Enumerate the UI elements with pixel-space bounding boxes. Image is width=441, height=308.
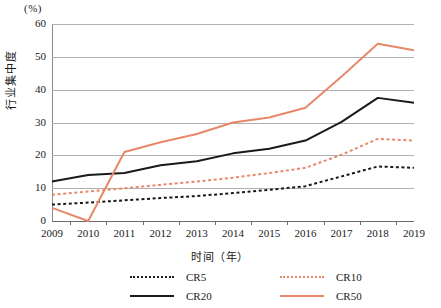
x-tick-mark xyxy=(215,221,216,225)
y-tick-label: 40 xyxy=(20,83,46,95)
x-tick-label: 2010 xyxy=(68,227,108,239)
x-tick-mark xyxy=(396,221,397,225)
y-tick-label: 50 xyxy=(20,50,46,62)
x-tick-label: 2013 xyxy=(177,227,217,239)
legend-item-cr5[interactable]: CR5 xyxy=(130,270,206,284)
legend-swatch-cr20 xyxy=(130,291,174,301)
x-tick-label: 2019 xyxy=(394,227,434,239)
x-tick-label: 2009 xyxy=(32,227,72,239)
x-tick-mark xyxy=(360,221,361,225)
y-tick-label: 20 xyxy=(20,148,46,160)
legend-label-cr50: CR50 xyxy=(336,290,362,302)
x-tick-label: 2017 xyxy=(322,227,362,239)
legend-swatch-cr5 xyxy=(130,272,174,282)
chart-figure: (%) 行业集中度 0102030405060 2009201020112012… xyxy=(0,0,441,308)
x-tick-label: 2012 xyxy=(141,227,181,239)
x-tick-mark xyxy=(251,221,252,225)
y-tick-label: 60 xyxy=(20,17,46,29)
x-tick-mark xyxy=(70,221,71,225)
x-tick-label: 2015 xyxy=(249,227,289,239)
y-tick-label: 10 xyxy=(20,181,46,193)
legend-label-cr5: CR5 xyxy=(186,271,206,283)
x-axis-title: 时间（年） xyxy=(150,248,290,264)
x-tick-label: 2014 xyxy=(213,227,253,239)
x-tick-mark xyxy=(179,221,180,225)
x-tick-mark xyxy=(143,221,144,225)
legend-label-cr20: CR20 xyxy=(186,290,212,302)
x-tick-label: 2016 xyxy=(285,227,325,239)
legend-swatch-cr50 xyxy=(280,291,324,301)
legend-item-cr10[interactable]: CR10 xyxy=(280,270,362,284)
x-tick-label: 2018 xyxy=(358,227,398,239)
chart-legend: CR5CR10CR20CR50 xyxy=(130,270,430,304)
legend-item-cr20[interactable]: CR20 xyxy=(130,289,212,303)
x-tick-label: 2011 xyxy=(104,227,144,239)
legend-label-cr10: CR10 xyxy=(336,271,362,283)
legend-item-cr50[interactable]: CR50 xyxy=(280,289,362,303)
series-lines xyxy=(52,24,414,221)
x-tick-mark xyxy=(324,221,325,225)
y-tick-label: 30 xyxy=(20,116,46,128)
x-tick-mark xyxy=(106,221,107,225)
plot-area xyxy=(52,24,414,221)
legend-swatch-cr10 xyxy=(280,272,324,282)
x-tick-mark xyxy=(287,221,288,225)
series-line-cr20 xyxy=(52,98,414,182)
series-line-cr50 xyxy=(52,44,414,221)
y-tick-label: 0 xyxy=(20,214,46,226)
